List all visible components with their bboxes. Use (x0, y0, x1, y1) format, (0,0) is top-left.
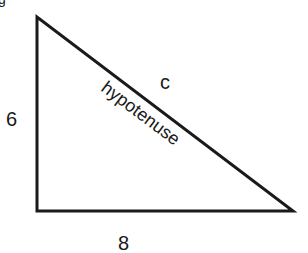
horizontal-side-label: 8 (118, 232, 129, 253)
vertical-side-label: 6 (6, 108, 17, 130)
right-triangle (37, 17, 293, 211)
partial-glyph: g (0, 0, 6, 7)
hypotenuse-word-label: hypotenuse (98, 77, 184, 149)
hypotenuse-letter-label: c (160, 71, 170, 93)
triangle-diagram: g 6 8 c hypotenuse (0, 0, 308, 253)
